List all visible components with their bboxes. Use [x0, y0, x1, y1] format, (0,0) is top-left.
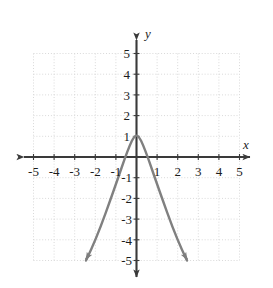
y-tick-label: 3 [124, 88, 131, 103]
y-tick-label: 1 [124, 129, 131, 144]
y-tick-label: 2 [124, 108, 131, 123]
x-tick-label: -1 [110, 164, 121, 179]
y-tick-label: -2 [121, 191, 132, 206]
x-tick-label: -5 [28, 164, 39, 179]
y-tick-label: -5 [121, 253, 132, 268]
x-tick-label: 3 [195, 164, 202, 179]
x-tick-label: 4 [216, 164, 223, 179]
x-tick-labels: -5 -4 -3 -2 -1 1 2 3 4 5 [28, 164, 243, 179]
y-tick-label: -3 [121, 212, 132, 227]
y-tick-label: -4 [121, 233, 132, 248]
x-axis-label: x [242, 137, 249, 152]
graph-figure: -5 -4 -3 -2 -1 1 2 3 4 5 5 4 3 2 1 -1 -2… [0, 0, 273, 288]
axis-lines [24, 40, 250, 277]
x-tick-label: -2 [90, 164, 101, 179]
y-axis-label: y [143, 26, 151, 41]
x-tick-label: 5 [236, 164, 243, 179]
y-tick-label: 5 [124, 46, 131, 61]
x-tick-label: 2 [174, 164, 181, 179]
y-tick-label: -1 [121, 170, 132, 185]
x-tick-label: 1 [154, 164, 161, 179]
y-tick-label: 4 [124, 67, 131, 82]
coordinate-plane-svg: -5 -4 -3 -2 -1 1 2 3 4 5 5 4 3 2 1 -1 -2… [0, 0, 273, 288]
x-tick-label: -3 [69, 164, 80, 179]
x-tick-label: -4 [49, 164, 60, 179]
